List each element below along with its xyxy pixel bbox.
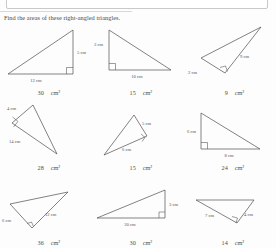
side-label-6b: 8 cm: [224, 153, 233, 158]
answer-8: 30cm²: [92, 239, 184, 246]
answer-2: 15cm²: [92, 89, 184, 96]
answer-value-5: 15: [124, 164, 136, 171]
side-label-8b: 3 cm: [169, 202, 178, 207]
problem-cell-2: 3 cm 10 cm 15cm²: [92, 22, 184, 97]
side-label-7b: 12 cm: [45, 212, 57, 217]
side-label-5a: 5 cm: [142, 121, 151, 126]
answer-5: 15cm²: [92, 164, 184, 171]
side-label-9b: 4 cm: [244, 212, 253, 217]
problem-cell-1: 12 cm 5 cm 30cm²: [0, 22, 92, 97]
right-angle-marker-1: [67, 68, 74, 75]
side-label-5b: 6 cm: [122, 147, 131, 152]
side-label-4a: 4 cm: [7, 106, 16, 111]
triangle-outline-4: [12, 105, 57, 154]
problem-grid: 12 cm 5 cm 30cm² 3 cm 10 cm 15cm²: [0, 22, 276, 248]
triangle-figure-3: 2 cm 9 cm: [184, 22, 276, 97]
triangle-outline-7: [10, 192, 68, 228]
answer-1: 30cm²: [0, 89, 92, 96]
answer-6: 24cm²: [184, 164, 276, 171]
answer-value-9: 14: [216, 239, 228, 246]
answer-value-8: 30: [124, 239, 136, 246]
answer-unit-2: cm²: [143, 89, 152, 96]
side-label-1b: 5 cm: [77, 50, 86, 55]
triangle-figure-6: 6 cm 8 cm: [184, 97, 276, 172]
problem-cell-9: 7 cm 4 cm 14cm²: [184, 172, 276, 247]
side-label-6a: 6 cm: [187, 129, 196, 134]
problem-cell-3: 2 cm 9 cm 9cm²: [184, 22, 276, 97]
problem-cell-7: 6 cm 12 cm 36cm²: [0, 172, 92, 247]
answer-unit-5: cm²: [143, 164, 152, 171]
answer-unit-3: cm²: [235, 89, 244, 96]
answer-value-4: 28: [32, 164, 44, 171]
problem-cell-8: 20 cm 3 cm 30cm²: [92, 172, 184, 247]
triangle-outline-1: [8, 30, 73, 74]
side-label-2a: 3 cm: [94, 42, 103, 47]
triangle-outline-6: [201, 113, 260, 149]
right-angle-marker-2: [109, 64, 116, 71]
triangle-outline-8: [97, 190, 165, 218]
worksheet-page: Find the areas of these right-angled tri…: [0, 0, 276, 248]
side-label-8a: 20 cm: [124, 222, 136, 227]
answer-3: 9cm²: [184, 89, 276, 96]
side-label-2b: 10 cm: [131, 74, 143, 79]
answer-unit-6: cm²: [235, 164, 244, 171]
triangle-figure-2: 3 cm 10 cm: [92, 22, 184, 97]
side-label-7a: 6 cm: [2, 218, 11, 223]
side-label-3a: 2 cm: [188, 70, 197, 75]
answer-value-1: 30: [32, 89, 44, 96]
answer-9: 14cm²: [184, 239, 276, 246]
answer-value-3: 9: [216, 89, 228, 96]
triangle-figure-9: 7 cm 4 cm: [184, 172, 276, 248]
side-label-9a: 7 cm: [205, 213, 214, 218]
right-angle-marker-6: [201, 143, 208, 150]
top-cutoff-panel: [6, 0, 268, 9]
right-angle-marker-8: [159, 212, 165, 218]
problem-cell-5: 5 cm 6 cm 15cm²: [92, 97, 184, 172]
problem-cell-4: 4 cm 14 cm 28cm²: [0, 97, 92, 172]
triangle-figure-1: 12 cm 5 cm: [0, 22, 92, 97]
triangle-figure-5: 5 cm 6 cm: [92, 97, 184, 172]
triangle-figure-4: 4 cm 14 cm: [0, 97, 92, 172]
answer-4: 28cm²: [0, 164, 92, 171]
answer-unit-4: cm²: [51, 164, 60, 171]
side-label-4b: 14 cm: [9, 139, 21, 144]
answer-value-2: 15: [124, 89, 136, 96]
problem-cell-6: 6 cm 8 cm 24cm²: [184, 97, 276, 172]
triangle-outline-2: [109, 30, 171, 70]
triangle-outline-3: [201, 27, 261, 73]
answer-7: 36cm²: [0, 239, 92, 246]
answer-value-6: 24: [216, 164, 228, 171]
answer-unit-1: cm²: [51, 89, 60, 96]
side-label-3b: 9 cm: [240, 54, 249, 59]
answer-unit-7: cm²: [51, 239, 60, 246]
triangle-figure-8: 20 cm 3 cm: [92, 172, 184, 248]
header-divider: [0, 11, 132, 12]
triangle-figure-7: 6 cm 12 cm: [0, 172, 92, 248]
answer-unit-8: cm²: [143, 239, 152, 246]
page-title: Find the areas of these right-angled tri…: [4, 14, 120, 21]
side-label-1a: 12 cm: [30, 78, 42, 83]
answer-unit-9: cm²: [235, 239, 244, 246]
answer-value-7: 36: [32, 239, 44, 246]
